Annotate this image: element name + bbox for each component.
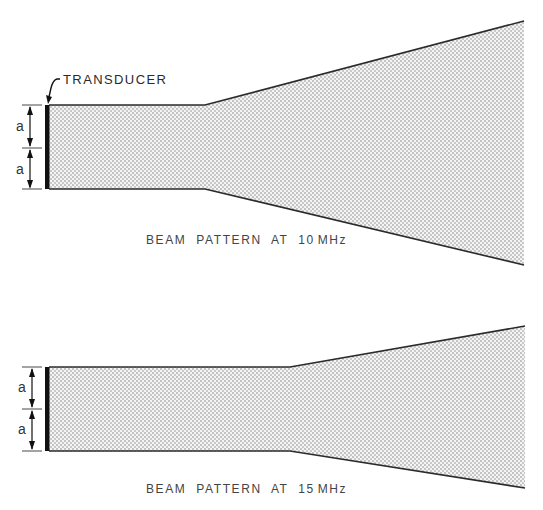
dimension-label-a-upper: a	[16, 118, 24, 134]
transducer-callout: TRANSDUCER	[46, 72, 167, 104]
dimension-label-a-lower: a	[16, 161, 24, 177]
arrow-up-icon	[27, 106, 33, 115]
arrow-up-icon	[29, 410, 35, 419]
dimension-markers-10mhz: a a	[14, 105, 42, 189]
caption-15mhz: BEAM PATTERN AT 15MHz	[146, 482, 347, 496]
arrow-down-icon	[29, 399, 35, 408]
beam-panel-15mhz: a a BEAM PATTERN AT 15MHz	[16, 326, 525, 496]
dimension-markers-15mhz: a a	[16, 367, 42, 451]
caption-10mhz-unit: MHz	[318, 233, 347, 247]
arrow-down-icon	[27, 180, 33, 189]
arrow-down-icon	[29, 441, 35, 450]
transducer-element-15mhz	[45, 367, 50, 451]
beam-pattern-diagram: TRANSDUCER a a BEAM PATTERN AT 10MHz	[0, 0, 543, 510]
caption-15mhz-text: BEAM PATTERN AT 15	[146, 482, 315, 496]
beam-shape-15mhz	[49, 326, 525, 488]
arrow-up-icon	[27, 149, 33, 158]
transducer-label: TRANSDUCER	[63, 72, 167, 87]
beam-panel-10mhz: TRANSDUCER a a BEAM PATTERN AT 10MHz	[14, 21, 524, 265]
dimension-label-a-lower: a	[18, 421, 26, 437]
arrow-down-icon	[27, 138, 33, 147]
transducer-element-10mhz	[45, 105, 50, 189]
dimension-label-a-upper: a	[18, 379, 26, 395]
caption-10mhz-text: BEAM PATTERN AT 10	[146, 233, 315, 247]
arrow-up-icon	[29, 368, 35, 377]
callout-arrow-icon	[46, 95, 52, 104]
caption-15mhz-unit: MHz	[318, 482, 347, 496]
caption-10mhz: BEAM PATTERN AT 10MHz	[146, 233, 347, 247]
beam-shape-10mhz	[49, 21, 524, 265]
